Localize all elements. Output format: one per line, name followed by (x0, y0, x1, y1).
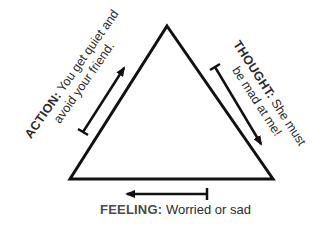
feeling-heading: FEELING: (100, 202, 162, 217)
cognitive-triangle-diagram: ACTION: You get quiet and avoid your fri… (0, 0, 329, 228)
feeling-text: Worried or sad (162, 202, 251, 217)
feeling-label: FEELING: Worried or sad (100, 202, 251, 217)
arrow-feeling-to-action (127, 188, 207, 200)
